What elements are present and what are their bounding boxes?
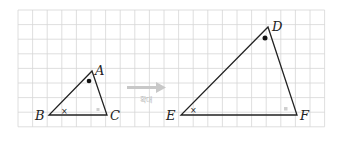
triangle-def — [181, 27, 297, 115]
label-e: E — [165, 108, 176, 123]
angle-c-square-mark — [97, 108, 100, 111]
angle-e-cross-mark: × — [190, 106, 197, 115]
angle-f-square-mark — [284, 107, 288, 111]
label-d: D — [271, 19, 283, 34]
similar-triangles-diagram: × A B C 확대 × D E F — [0, 0, 342, 141]
label-f: F — [299, 108, 310, 123]
arrow-icon — [127, 82, 166, 93]
label-b: B — [34, 108, 45, 123]
angle-d-dot-mark — [263, 36, 268, 41]
arrow-label: 확대 — [140, 95, 152, 104]
label-c: C — [110, 108, 120, 123]
label-a: A — [94, 63, 104, 78]
angle-b-cross-mark: × — [61, 107, 68, 116]
angle-a-dot-mark — [87, 79, 92, 84]
